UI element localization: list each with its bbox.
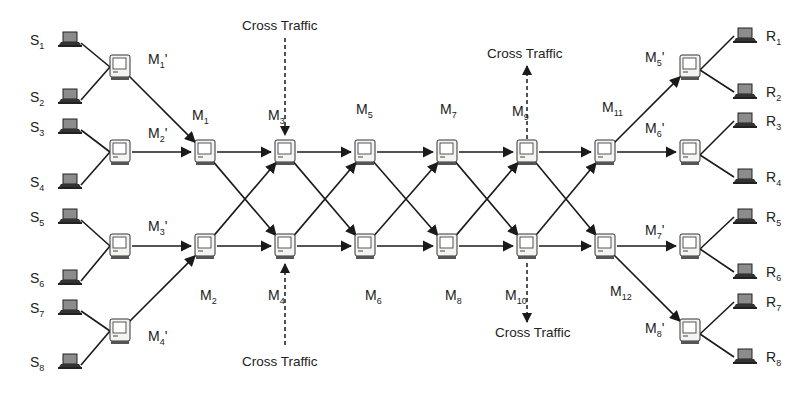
router-computer-icon [110,140,130,165]
node-label-s3: S3 [30,119,44,138]
access-link [700,217,734,249]
node-label-r6: R6 [766,264,781,283]
access-link [81,246,110,281]
access-link [700,334,734,357]
router-computer-icon [595,234,615,259]
access-link [700,36,734,70]
directed-link [535,163,596,237]
access-link [81,331,110,365]
router-computer-icon [195,234,215,259]
node-label-s6: S6 [30,270,44,289]
receiver-laptop-icon [733,169,757,184]
cross-traffic-label: Cross Traffic [487,46,563,61]
source-laptop-icon [58,89,82,104]
node-label-r3: R3 [766,113,781,132]
node-label-m5p: M5' [645,49,664,68]
directed-links [128,75,680,322]
access-link [81,130,110,152]
receiver-laptop-icon [733,294,757,309]
source-laptop-icon [58,354,82,369]
node-label-s7: S7 [30,300,44,319]
directed-link [293,161,356,235]
node-label-m6p: M6' [645,120,664,139]
cross-traffic-label: Cross Traffic [242,18,318,33]
node-label-m1: M1 [192,107,209,126]
source-laptop-icon [58,209,82,224]
router-computer-icon [595,140,615,165]
node-label-m5: M5 [356,101,373,120]
router-computer-icon [680,234,700,259]
directed-link [613,254,680,321]
node-label-m9: M9 [512,103,529,122]
node-label-r1: R1 [766,28,781,47]
directed-link [455,163,518,237]
router-computer-icon [680,319,700,344]
router-computer-icon [680,55,700,80]
cross-traffic-label: Cross Traffic [495,325,571,340]
access-link [700,121,734,155]
node-label-m2p: M2' [148,125,167,144]
node-label-m4: M4 [268,287,285,306]
network-diagram: Cross TrafficCross TrafficCross TrafficC… [0,0,812,393]
node-label-r2: R2 [766,84,781,103]
receiver-laptop-icon [733,28,757,43]
node-label-m7: M7 [440,101,457,120]
access-link [700,70,734,92]
router-computer-icon [437,234,457,259]
router-computer-icon [110,234,130,259]
node-label-r5: R5 [766,209,781,228]
node-label-m3p: M3' [148,218,167,237]
source-laptop-icon [58,119,82,134]
directed-link [373,163,438,237]
access-link [700,155,734,177]
node-label-m4p: M4' [148,328,167,347]
node-label-r7: R7 [766,294,781,313]
directed-link [455,161,518,235]
node-label-s1: S1 [30,32,44,51]
router-computer-icon [275,140,295,165]
receiver-laptop-icon [733,264,757,279]
node-label-s2: S2 [30,89,44,108]
directed-link [213,163,276,237]
router-computer-icon [275,234,295,259]
router-computer-icon [517,234,537,259]
access-link [81,67,110,100]
access-link [81,311,110,331]
nodes [58,28,757,369]
node-label-s5: S5 [30,209,44,228]
node-label-m8p: M8' [645,320,664,339]
node-label-m7p: M7' [645,222,664,241]
router-computer-icon [437,140,457,165]
node-label-r4: R4 [766,169,781,188]
node-label-m8: M8 [445,287,462,306]
directed-link [128,256,195,323]
node-label-m12: M12 [610,283,632,302]
node-label-m1p: M1' [148,51,167,70]
source-laptop-icon [58,174,82,189]
router-computer-icon [110,319,130,344]
receiver-laptop-icon [733,113,757,128]
node-label-s8: S8 [30,354,44,373]
directed-link [213,161,276,235]
node-label-s4: S4 [30,174,44,193]
cross-traffic-label: Cross Traffic [242,354,318,369]
directed-link [293,163,356,237]
node-label-m6: M6 [365,287,382,306]
directed-link [535,161,596,235]
router-computer-icon [517,140,537,165]
directed-link [373,161,438,235]
receiver-laptop-icon [733,209,757,224]
router-computer-icon [195,140,215,165]
access-link [81,152,110,185]
directed-link [128,75,195,142]
router-computer-icon [110,55,130,80]
access-link [81,43,110,67]
cross-traffic-flows: Cross TrafficCross TrafficCross TrafficC… [242,18,571,369]
source-laptop-icon [58,270,82,285]
node-label-m11: M11 [602,99,623,118]
source-laptop-icon [58,32,82,47]
router-computer-icon [355,140,375,165]
access-link [700,249,734,272]
access-link [81,220,110,246]
router-computer-icon [680,140,700,165]
